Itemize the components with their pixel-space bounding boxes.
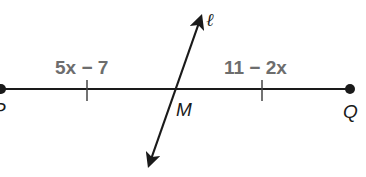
expression-mq: 11 − 2x (224, 57, 287, 78)
point-p-label: P (0, 99, 6, 120)
line-l-label: ℓ (206, 9, 214, 30)
point-q (345, 84, 355, 94)
segment-bisector-diagram: ℓ 5x − 7 11 − 2x P M Q (0, 0, 366, 177)
point-m-label: M (176, 99, 192, 120)
point-q-label: Q (343, 101, 358, 122)
line-l (149, 17, 201, 165)
expression-pm: 5x − 7 (55, 57, 108, 78)
point-p (0, 84, 6, 94)
